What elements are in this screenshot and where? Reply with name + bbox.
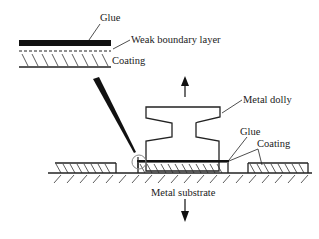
pull-up-arrow-icon (181, 76, 189, 97)
coating-right (248, 163, 308, 173)
metal-substrate-hatch (54, 175, 308, 183)
metal-substrate-label: Metal substrate (151, 187, 216, 198)
coating-left (55, 163, 116, 173)
adhesion-test-diagram: Glue Weak boundary layer Coating Metal d… (0, 0, 319, 239)
magnifier-wedge (93, 77, 136, 153)
glue-label: Glue (240, 126, 261, 137)
inset-coating-label: Coating (112, 55, 146, 66)
coating-label: Coating (257, 138, 291, 149)
inset-glue-layer (19, 40, 111, 46)
pull-down-arrow-icon (181, 199, 189, 222)
inset-weak-boundary-label: Weak boundary layer (131, 34, 221, 45)
metal-dolly-label: Metal dolly (243, 94, 292, 105)
inset-coating-hatch (22, 54, 108, 66)
inset-weak-boundary-leader (113, 40, 130, 49)
glue-layer (137, 160, 229, 163)
metal-dolly-leader (222, 100, 242, 113)
inset-glue-label: Glue (100, 12, 121, 23)
glue-leader (229, 137, 247, 160)
inset-detail: Glue Weak boundary layer Coating (19, 12, 221, 67)
inset-glue-leader (89, 24, 100, 40)
